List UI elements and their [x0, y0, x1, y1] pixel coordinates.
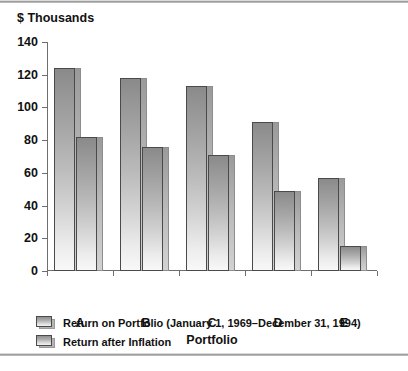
figure-top-rule [0, 0, 408, 3]
y-tick-label: 0 [31, 264, 38, 278]
bar-face [318, 178, 339, 271]
chart-figure: $ Thousands 020406080100120140 ABCDE Por… [0, 0, 408, 371]
y-tick [42, 206, 47, 207]
y-tick-label: 40 [24, 199, 38, 213]
bar-face [142, 147, 163, 271]
x-tick [377, 271, 378, 276]
legend-label: Return on Portfolio (January 1, 1969–Dec… [63, 317, 361, 329]
bar [274, 185, 301, 271]
x-tick [113, 271, 114, 276]
y-tick [42, 42, 47, 43]
y-tick-label: 20 [24, 231, 38, 245]
bar-group [318, 42, 367, 271]
bar-group [252, 42, 301, 271]
bar-face [208, 155, 229, 271]
y-tick-label: 80 [24, 133, 38, 147]
legend-swatch-face [36, 335, 52, 346]
x-tick [47, 271, 48, 276]
y-axis-line [47, 42, 48, 271]
legend-item[interactable]: Return after Inflation [36, 333, 361, 350]
x-tick [245, 271, 246, 276]
bar-group [186, 42, 235, 271]
bar-face [76, 137, 97, 271]
bar-face [186, 86, 207, 271]
y-tick [42, 107, 47, 108]
bar [208, 149, 235, 271]
bar [76, 131, 103, 271]
legend-swatch-series-2 [36, 335, 55, 348]
bar-face [274, 191, 295, 271]
x-tick [179, 271, 180, 276]
y-tick-label: 100 [17, 100, 38, 114]
bar [340, 240, 367, 271]
y-tick [42, 173, 47, 174]
plot-area: 020406080100120140 ABCDE Portfolio [47, 42, 377, 271]
y-axis-title: $ Thousands [17, 11, 94, 25]
legend-label: Return after Inflation [63, 336, 171, 348]
x-tick [311, 271, 312, 276]
chart-legend: Return on Portfolio (January 1, 1969–Dec… [36, 314, 361, 352]
y-tick-label: 140 [17, 35, 38, 49]
figure-bottom-rule [0, 353, 408, 356]
y-tick-label: 120 [17, 68, 38, 82]
bar-group [120, 42, 169, 271]
y-tick [42, 140, 47, 141]
bar-face [120, 78, 141, 271]
bar-face [252, 122, 273, 271]
bar-group [54, 42, 103, 271]
bar [142, 141, 169, 271]
bar-face [54, 68, 75, 271]
y-tick-label: 60 [24, 166, 38, 180]
legend-item[interactable]: Return on Portfolio (January 1, 1969–Dec… [36, 314, 361, 331]
legend-swatch-face [36, 316, 52, 327]
y-tick [42, 238, 47, 239]
bar-face [340, 246, 361, 271]
y-tick [42, 75, 47, 76]
legend-swatch-series-1 [36, 316, 55, 329]
